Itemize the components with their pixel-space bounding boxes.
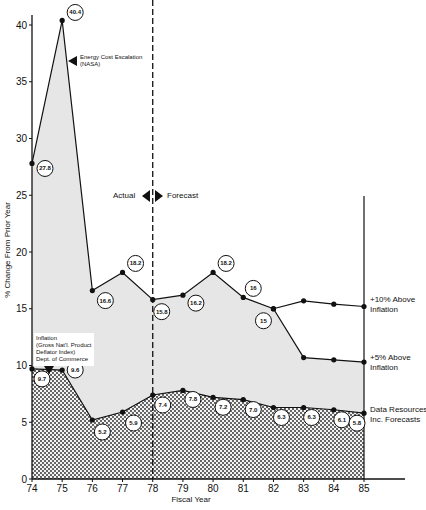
data-point <box>331 302 336 307</box>
dri-label-1: Data Resources <box>370 405 426 414</box>
data-point <box>361 304 366 309</box>
y-tick-label: 25 <box>16 190 28 201</box>
data-point <box>90 417 95 422</box>
value-bubble-text: 18.2 <box>130 260 142 266</box>
x-tick-label: 82 <box>268 483 280 494</box>
y-tick-label: 35 <box>16 76 28 87</box>
value-bubble-text: 5.9 <box>129 420 138 426</box>
actual-label: Actual <box>113 191 135 200</box>
value-bubble-text: 16.2 <box>190 300 202 306</box>
data-point <box>180 388 185 393</box>
data-point <box>150 297 155 302</box>
arrow-right-icon <box>155 190 163 202</box>
data-point <box>271 405 276 410</box>
data-point <box>301 355 306 360</box>
plus5-label-1: +5% Above <box>370 353 411 362</box>
value-bubble-text: 6.3 <box>277 414 286 420</box>
x-tick-label: 76 <box>87 483 99 494</box>
forecast-label: Forecast <box>167 191 199 200</box>
x-tick-label: 81 <box>238 483 250 494</box>
data-point <box>60 18 65 23</box>
inflation-label-3: Deflator Index) <box>36 349 75 355</box>
value-bubble-text: 5.2 <box>98 429 107 435</box>
value-bubble-text: 18.2 <box>220 260 232 266</box>
data-point <box>271 306 276 311</box>
x-tick-label: 84 <box>328 483 340 494</box>
x-tick-label: 75 <box>57 483 69 494</box>
value-bubble-text: 7.0 <box>249 407 258 413</box>
x-tick-label: 74 <box>26 483 38 494</box>
y-tick-label: 20 <box>16 247 28 258</box>
value-bubble-text: 15.8 <box>156 309 168 315</box>
arrow-left-icon <box>142 190 150 202</box>
inflation-label-1: Inflation <box>36 335 57 341</box>
plus5-label-2: Inflation <box>370 363 398 372</box>
data-point <box>60 367 65 372</box>
value-bubble-text: 40.4 <box>69 9 81 15</box>
data-point <box>90 288 95 293</box>
value-bubble-text: 7.2 <box>219 404 228 410</box>
value-bubble-text: 6.3 <box>307 414 316 420</box>
value-bubble-text: 9.6 <box>71 367 80 373</box>
pointer-left-icon <box>68 56 77 66</box>
dri-label-2: Inc. Forecasts <box>370 415 420 424</box>
y-tick-label: 10 <box>16 360 28 371</box>
x-axis-title: Fiscal Year <box>171 495 210 504</box>
data-point <box>210 270 215 275</box>
series-line <box>273 301 364 309</box>
value-bubble-text: 7.8 <box>189 396 198 402</box>
chart: 0510152025303540747576777879808182838485… <box>0 0 426 510</box>
inflation-label-2: (Gross Nat'l. Product <box>36 342 92 348</box>
data-point <box>29 366 34 371</box>
energy-label-2: (NASA) <box>80 61 100 67</box>
data-point <box>180 293 185 298</box>
y-tick-label: 40 <box>16 20 28 31</box>
data-point <box>331 357 336 362</box>
data-point <box>210 395 215 400</box>
value-bubble-text: 6.1 <box>338 417 347 423</box>
data-point <box>331 407 336 412</box>
x-tick-label: 80 <box>208 483 220 494</box>
data-point <box>120 270 125 275</box>
plus10-label-2: Inflation <box>370 305 398 314</box>
data-point <box>301 298 306 303</box>
x-tick-label: 85 <box>358 483 370 494</box>
data-point <box>361 359 366 364</box>
data-point <box>120 409 125 414</box>
x-tick-label: 78 <box>147 483 159 494</box>
energy-label-1: Energy Cost Escalation <box>80 54 142 60</box>
value-bubble-text: 9.7 <box>38 376 47 382</box>
data-point <box>29 161 34 166</box>
value-bubble-text: 27.8 <box>39 165 51 171</box>
inflation-label-4: Dept. of Commerce <box>36 356 89 362</box>
value-bubble-text: 16 <box>250 285 257 291</box>
x-tick-label: 79 <box>177 483 189 494</box>
data-point <box>241 295 246 300</box>
data-point <box>241 397 246 402</box>
data-point <box>150 392 155 397</box>
y-tick-label: 15 <box>16 303 28 314</box>
data-point <box>301 405 306 410</box>
value-bubble-text: 15 <box>260 318 267 324</box>
value-bubble-text: 5.8 <box>353 420 362 426</box>
y-axis-title: % Change From Prior Year <box>3 202 12 298</box>
value-bubble-text: 7.4 <box>159 402 168 408</box>
data-point <box>361 411 366 416</box>
x-tick-label: 77 <box>117 483 129 494</box>
plus10-label-1: +10% Above <box>370 295 416 304</box>
y-tick-label: 5 <box>21 417 27 428</box>
x-tick-label: 83 <box>298 483 310 494</box>
y-tick-label: 30 <box>16 133 28 144</box>
value-bubble-text: 16.6 <box>100 298 112 304</box>
